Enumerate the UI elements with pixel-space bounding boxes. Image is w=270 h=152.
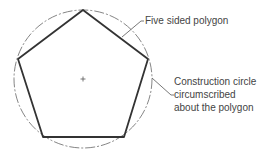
circle-label-line3: about the polygon <box>174 101 254 114</box>
five-sided-polygon <box>18 10 148 137</box>
center-mark <box>81 77 86 82</box>
polygon-label: Five sided polygon <box>145 14 228 27</box>
polygon-leader-line <box>122 21 144 37</box>
circle-label-line2: circumscribed <box>174 88 236 101</box>
circle-leader-line <box>152 78 174 95</box>
circle-label-line1: Construction circle <box>174 75 256 88</box>
